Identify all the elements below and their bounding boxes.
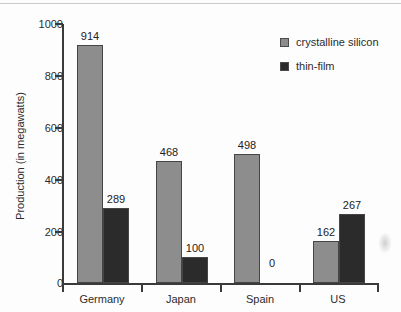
bar-value-us-thin-film: 267 xyxy=(332,200,372,211)
x-category-label-spain: Spain xyxy=(215,293,305,305)
y-tick-mark-600 xyxy=(55,127,63,129)
y-tick-mark-1000 xyxy=(55,23,63,25)
y-tick-mark-400 xyxy=(55,179,63,181)
y-tick-600: 600 xyxy=(0,123,63,134)
y-tick-0: 0 xyxy=(0,278,63,289)
bar-value-germany-crystalline-silicon: 914 xyxy=(70,31,110,42)
y-tick-label-0: 0 xyxy=(17,278,63,289)
x-category-label-japan: Japan xyxy=(136,293,226,305)
y-tick-400: 400 xyxy=(0,175,63,186)
legend-label-crystalline-silicon: crystalline silicon xyxy=(296,36,379,48)
bar-value-japan-crystalline-silicon: 468 xyxy=(149,147,189,158)
legend-label-thin-film: thin-film xyxy=(296,60,335,72)
bar-value-spain-thin-film: 0 xyxy=(252,258,292,269)
bar-japan-crystalline-silicon[interactable] xyxy=(156,161,182,283)
bar-japan-thin-film[interactable] xyxy=(182,257,208,283)
y-tick-mark-200 xyxy=(55,231,63,233)
bar-us-crystalline-silicon[interactable] xyxy=(313,241,339,283)
bar-germany-crystalline-silicon[interactable] xyxy=(77,45,103,283)
chart-legend: crystalline silicon thin-film xyxy=(280,30,379,78)
legend-item-thin-film[interactable]: thin-film xyxy=(280,54,379,78)
x-tick-mark-start xyxy=(62,285,64,292)
bar-value-japan-thin-film: 100 xyxy=(175,243,215,254)
bar-value-germany-thin-film: 289 xyxy=(96,194,136,205)
chart-screenshot: 1000 800 600 400 200 0 Production (in me… xyxy=(0,0,401,312)
y-tick-1000: 1000 xyxy=(0,19,63,30)
y-tick-200: 200 xyxy=(0,227,63,238)
x-tick-mark-spain-us xyxy=(299,285,301,292)
legend-item-crystalline-silicon[interactable]: crystalline silicon xyxy=(280,30,379,54)
bar-chart-plot-area: 1000 800 600 400 200 0 Production (in me… xyxy=(0,0,401,312)
x-category-label-us: US xyxy=(293,293,383,305)
legend-swatch-icon-thin-film xyxy=(280,62,289,71)
bar-value-spain-crystalline-silicon: 498 xyxy=(227,140,267,151)
y-axis-title: Production (in megawatts) xyxy=(14,56,26,256)
x-tick-mark-germany-japan xyxy=(141,285,143,292)
y-tick-mark-800 xyxy=(55,75,63,77)
legend-swatch-icon-crystalline-silicon xyxy=(280,38,289,47)
x-tick-mark-japan-spain xyxy=(220,285,222,292)
bar-us-thin-film[interactable] xyxy=(339,214,365,283)
y-axis-line xyxy=(62,24,64,284)
bar-germany-thin-film[interactable] xyxy=(103,208,129,283)
y-tick-800: 800 xyxy=(0,71,63,82)
x-category-label-germany: Germany xyxy=(57,293,147,305)
x-tick-mark-end xyxy=(377,285,379,292)
